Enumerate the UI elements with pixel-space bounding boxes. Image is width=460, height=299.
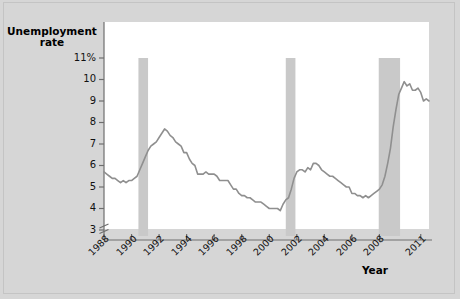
- y-tick-label-5: 5: [58, 181, 96, 192]
- y-axis-title-line2: rate: [40, 36, 64, 48]
- recession-band-3: [379, 58, 400, 236]
- y-tick-label-3: 3: [58, 224, 96, 235]
- recession-band-1: [138, 58, 148, 236]
- y-tick-label-10: 10: [58, 73, 96, 84]
- y-tick-label-11%: 11%: [58, 52, 96, 63]
- x-axis-title: Year: [350, 265, 400, 276]
- y-tick-label-6: 6: [58, 159, 96, 170]
- figure-container: 11%109876543 198819901992199419961998200…: [0, 0, 460, 299]
- y-tick-label-7: 7: [58, 138, 96, 149]
- y-axis-title: Unemployment rate: [6, 26, 98, 48]
- y-ticks-group: [99, 58, 104, 230]
- y-tick-label-4: 4: [58, 202, 96, 213]
- recession-band-2: [286, 58, 296, 236]
- y-tick-label-8: 8: [58, 116, 96, 127]
- y-tick-label-9: 9: [58, 95, 96, 106]
